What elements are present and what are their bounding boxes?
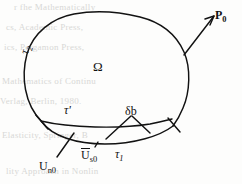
tick-right (168, 118, 180, 132)
label-us0: Us0 (81, 148, 97, 164)
label-un0: Un0 (39, 159, 56, 175)
un0-leader-line (57, 133, 74, 157)
figure-container: r fhe Mathematically cs, Academic Press,… (0, 0, 242, 184)
p0-arrow-shaft (184, 16, 214, 55)
label-p0: P0 (215, 8, 227, 24)
label-delta-b: δb (125, 104, 137, 119)
label-omega: Ω (93, 59, 103, 75)
chord-tau-prime (41, 119, 172, 127)
label-tau-prime: τ' (64, 103, 71, 118)
p0-arrow-head (205, 16, 214, 25)
outer-boundary-curve (24, 12, 189, 126)
label-tau1: τ1 (115, 147, 123, 163)
